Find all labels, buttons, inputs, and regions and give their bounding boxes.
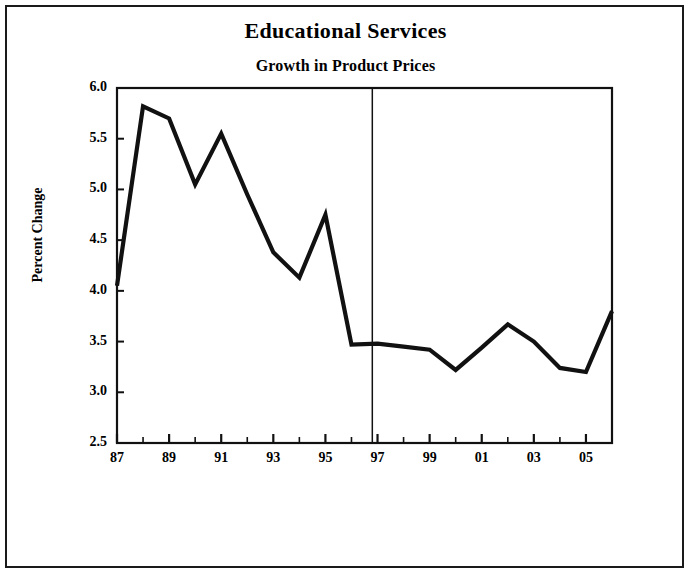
x-axis-tick-label: 05 bbox=[568, 450, 604, 466]
x-axis-tick-label: 99 bbox=[412, 450, 448, 466]
x-axis-tick-label: 97 bbox=[360, 450, 396, 466]
x-axis-tick-label: 03 bbox=[516, 450, 552, 466]
y-axis-tick-label: 5.5 bbox=[65, 130, 107, 146]
data-line-series bbox=[117, 106, 612, 372]
x-axis-tick-label: 89 bbox=[151, 450, 187, 466]
y-axis-tick-label: 4.5 bbox=[65, 231, 107, 247]
y-axis-tick-label: 4.0 bbox=[65, 282, 107, 298]
x-axis-tick-label: 91 bbox=[203, 450, 239, 466]
y-axis-tick-label: 2.5 bbox=[65, 434, 107, 450]
y-axis-tick-label: 5.0 bbox=[65, 180, 107, 196]
x-axis-tick-label: 95 bbox=[307, 450, 343, 466]
y-axis-tick-label: 3.0 bbox=[65, 383, 107, 399]
x-axis-ticks bbox=[117, 434, 612, 443]
x-axis-tick-label: 01 bbox=[464, 450, 500, 466]
y-axis-tick-label: 6.0 bbox=[65, 79, 107, 95]
chart-figure: Educational Services Growth in Product P… bbox=[0, 0, 691, 578]
axes-frame bbox=[117, 88, 612, 443]
x-axis-tick-label: 93 bbox=[255, 450, 291, 466]
y-axis-tick-label: 3.5 bbox=[65, 333, 107, 349]
x-axis-tick-label: 87 bbox=[99, 450, 135, 466]
